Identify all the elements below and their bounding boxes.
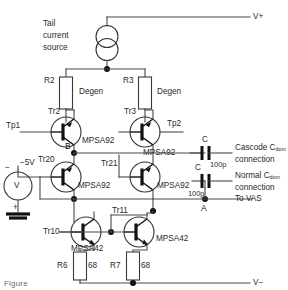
label-source-voltage: −5V: [20, 158, 35, 167]
label-r7-value: 68: [141, 261, 151, 270]
label-node-b: B: [65, 141, 71, 151]
capacitor-cascode-symbol: [190, 146, 232, 160]
tail-current-source-symbol: [96, 26, 118, 70]
label-degen-right: Degen: [157, 87, 182, 96]
label-node-a: A: [201, 203, 207, 213]
annotation-normal-cdom: Normal Cdom connection: [235, 171, 281, 192]
schematic-canvas: V+ V− Tail current source R2 R3 Degen De…: [0, 0, 288, 290]
label-tail-line1: Tail: [43, 19, 55, 28]
label-tp2: Tp2: [167, 119, 182, 128]
circuit-diagram: V+ V− Tail current source R2 R3 Degen De…: [0, 0, 288, 290]
label-part-tr11: MPSA42: [156, 234, 189, 243]
svg-text:Normal Cdom: Normal Cdom: [235, 171, 281, 180]
label-source-plus: +: [13, 203, 18, 212]
transistor-tr20-symbol: [40, 162, 81, 199]
annotation-cascode-line2: connection: [235, 155, 275, 164]
label-tr20: Tr20: [38, 155, 55, 164]
label-tr11: Tr11: [112, 206, 128, 215]
label-cap-normal-value: 100p: [188, 189, 204, 198]
svg-text:Cascode Cdom: Cascode Cdom: [235, 143, 287, 152]
label-r7: R7: [110, 261, 121, 270]
label-part-tr20: MPSA92: [78, 181, 111, 190]
label-cap-normal-ref: C: [195, 163, 201, 172]
label-part-tr2: MPSA92: [82, 136, 115, 145]
label-cap-cascode-ref: C: [202, 135, 208, 144]
label-part-tr21: MPSA92: [157, 181, 190, 190]
annotation-cascode-cdom: Cascode Cdom connection: [235, 143, 287, 164]
label-cap-cascode-value: 100p: [210, 160, 226, 169]
label-tr21: Tr21: [101, 159, 118, 168]
label-r2: R2: [44, 76, 55, 85]
annotation-cascode-line1: Cascode C: [235, 143, 276, 152]
transistor-tr11-symbol: [124, 211, 154, 252]
rail-positive: [107, 17, 250, 26]
resistor-r6-symbol: [74, 252, 87, 283]
label-r3: R3: [123, 76, 134, 85]
label-tail-line3: source: [43, 43, 68, 52]
caption-clipped: Figure: [4, 279, 28, 288]
label-r6-value: 68: [88, 261, 98, 270]
annotation-cascode-sub: dom: [276, 147, 287, 153]
annotation-normal-sub: dom: [270, 175, 281, 181]
capacitor-normal-symbol: [192, 174, 232, 188]
label-tr10: Tr10: [43, 227, 60, 236]
resistor-r3-symbol: [139, 77, 152, 122]
resistor-r7-symbol: [127, 252, 140, 283]
node-a-bus: [40, 188, 252, 222]
label-degen-left: Degen: [79, 87, 104, 96]
label-tp1: Tp1: [6, 121, 21, 130]
label-v-minus: V−: [253, 278, 263, 287]
label-source-ref: V: [14, 181, 20, 190]
node-vneg: [130, 280, 136, 286]
label-part-tr10: MPSA42: [71, 244, 104, 253]
annotation-to-vas: To VAS: [235, 194, 262, 203]
annotation-normal-line2: connection: [235, 183, 275, 192]
voltage-source-symbol: [4, 166, 40, 218]
label-tr2: Tr2: [48, 107, 60, 116]
label-tr3: Tr3: [124, 107, 136, 116]
label-v-plus: V+: [253, 12, 263, 21]
annotation-normal-line1: Normal C: [235, 171, 270, 180]
transistor-tr21-symbol: [119, 162, 160, 199]
label-source-minus: −: [5, 163, 10, 172]
label-part-tr3: MPSA92: [143, 148, 176, 157]
label-tail-line2: current: [43, 31, 69, 40]
node-b-bus: [74, 153, 205, 164]
label-r6: R6: [57, 261, 68, 270]
resistor-r2-symbol: [60, 77, 73, 122]
